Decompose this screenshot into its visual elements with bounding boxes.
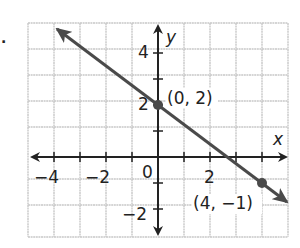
y-tick-label-neg2: −2 xyxy=(122,204,147,224)
x-axis-label: x xyxy=(272,129,284,149)
coordinate-plane: −4 −2 0 2 4 2 −2 x y (0, 2) (4, −1) xyxy=(0,0,300,248)
x-tick-label-neg4: −4 xyxy=(34,167,59,187)
point-label-0-2: (0, 2) xyxy=(167,88,213,108)
x-tick-label-0: 0 xyxy=(142,162,153,182)
y-tick-label-4: 4 xyxy=(138,42,149,62)
y-axis-label: y xyxy=(165,27,177,47)
x-tick-label-2: 2 xyxy=(204,167,215,187)
x-tick-label-neg2: −2 xyxy=(85,167,110,187)
point-4-neg1 xyxy=(257,178,267,188)
point-0-2 xyxy=(153,100,163,110)
point-label-4-neg1: (4, −1) xyxy=(193,193,253,213)
